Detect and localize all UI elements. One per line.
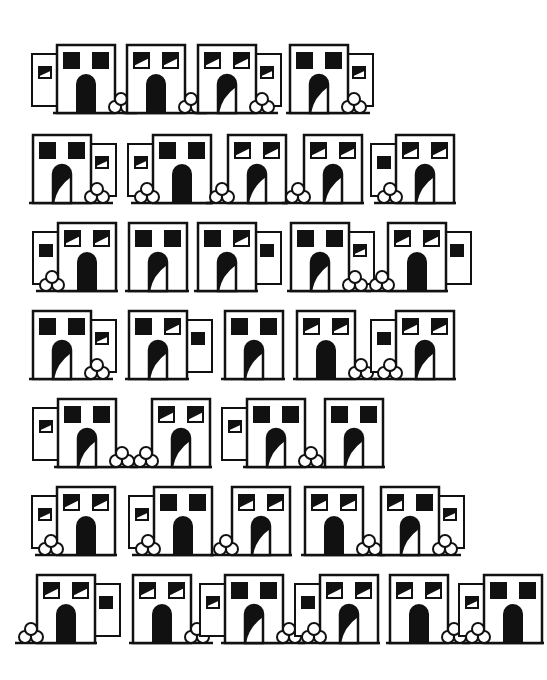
annex-left: [32, 54, 59, 106]
worksheet-canvas: [0, 0, 547, 680]
building-icon: [356, 307, 494, 385]
building-icon: [341, 483, 479, 561]
building-icon: [444, 571, 547, 649]
building-icon: [285, 395, 423, 473]
building-icon: [250, 41, 388, 119]
building-icon: [356, 131, 494, 209]
annex-right: [444, 232, 471, 284]
annex-left: [222, 408, 249, 460]
building-icon: [0, 131, 131, 209]
building-icon: [348, 219, 486, 297]
annex-left: [200, 584, 227, 636]
annex-left: [33, 408, 60, 460]
